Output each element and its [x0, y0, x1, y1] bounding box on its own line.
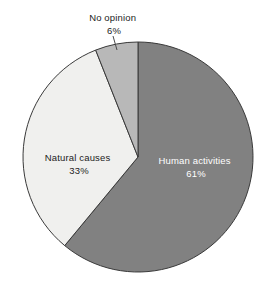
pie-chart-svg: No opinion 6% Natural causes 33% Human a…	[0, 0, 276, 292]
pie-label-no-opinion-name: No opinion	[89, 12, 136, 23]
pie-label-no-opinion-value: 6%	[107, 25, 121, 36]
pie-label-human-activities-name: Human activities	[159, 155, 231, 166]
pie-label-human-activities-value: 61%	[186, 168, 206, 179]
pie-label-natural-causes-name: Natural causes	[45, 152, 111, 163]
pie-label-no-opinion: No opinion 6%	[89, 12, 139, 36]
pie-label-natural-causes-value: 33%	[69, 165, 89, 176]
pie-chart-figure: No opinion 6% Natural causes 33% Human a…	[0, 0, 276, 292]
